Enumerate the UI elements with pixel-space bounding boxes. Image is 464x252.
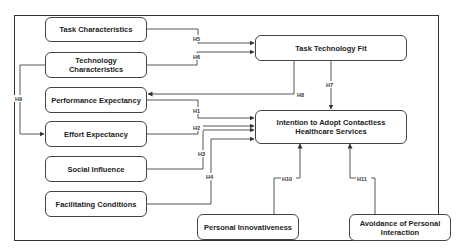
node-technology-characteristics: Technology Characteristics bbox=[45, 52, 147, 78]
label-h4: H4 bbox=[206, 174, 214, 180]
node-avoidance-personal-interaction: Avoidance of Personal Interaction bbox=[349, 214, 451, 241]
label-h9: H9 bbox=[15, 96, 22, 102]
node-label: Personal Innovativeness bbox=[204, 223, 292, 232]
node-social-influence: Social Influence bbox=[45, 156, 147, 182]
label-h3: H3 bbox=[198, 151, 205, 157]
label-h1: H1 bbox=[193, 108, 200, 114]
edge-h8 bbox=[148, 61, 294, 94]
node-performance-expectancy: Performance Expectancy bbox=[45, 87, 147, 113]
node-label: Effort Expectancy bbox=[64, 130, 128, 139]
label-h8: H8 bbox=[297, 92, 304, 98]
label-h7: H7 bbox=[326, 82, 333, 88]
node-label: Facilitating Conditions bbox=[56, 200, 137, 209]
node-task-technology-fit: Task Technology Fit bbox=[255, 35, 407, 61]
node-label: Social Influence bbox=[67, 165, 124, 174]
label-h5: H5 bbox=[193, 36, 200, 42]
edge-h3 bbox=[147, 130, 254, 169]
label-h6: H6 bbox=[193, 54, 200, 60]
node-label: Task Technology Fit bbox=[295, 44, 366, 53]
label-h11: H11 bbox=[357, 176, 367, 182]
node-label: Performance Expectancy bbox=[51, 96, 141, 105]
node-label: Avoidance of Personal Interaction bbox=[356, 219, 444, 237]
edge-h4 bbox=[147, 139, 254, 204]
node-label: Task Characteristics bbox=[60, 25, 133, 34]
node-label: Intention to Adopt Contactless Healthcar… bbox=[272, 118, 390, 136]
node-personal-innovativeness: Personal Innovativeness bbox=[197, 214, 299, 240]
label-h2: H2 bbox=[193, 125, 200, 131]
node-intention-to-adopt: Intention to Adopt Contactless Healthcar… bbox=[255, 110, 407, 144]
node-effort-expectancy: Effort Expectancy bbox=[45, 121, 147, 147]
node-task-characteristics: Task Characteristics bbox=[45, 17, 147, 42]
label-h10: H10 bbox=[282, 176, 292, 182]
node-label: Technology Characteristics bbox=[65, 56, 127, 74]
node-facilitating-conditions: Facilitating Conditions bbox=[45, 191, 147, 217]
